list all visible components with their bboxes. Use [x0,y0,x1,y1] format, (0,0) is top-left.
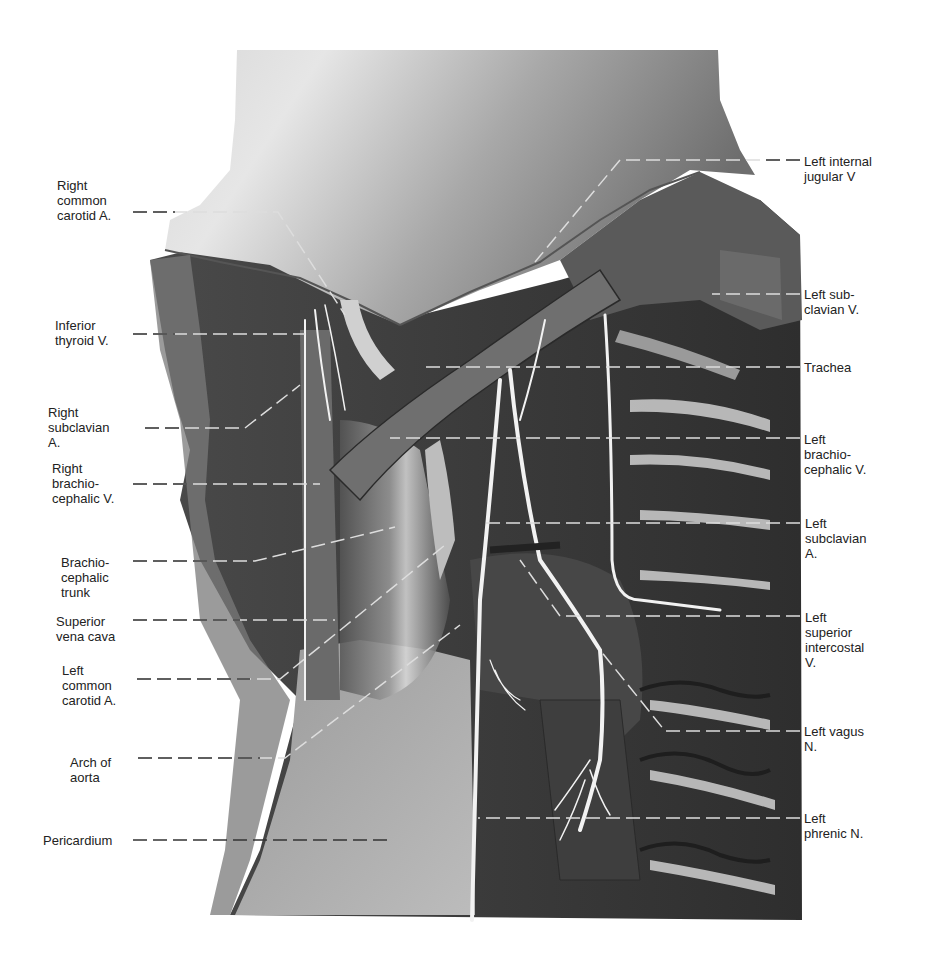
label-left-subclavian-vein: Left sub- clavian V. [804,287,859,317]
label-pericardium: Pericardium [43,833,112,848]
left-superior-intercostal-vein [490,545,560,550]
label-left-brachiocephalic-vein: Left brachio- cephalic V. [804,432,866,477]
label-left-superior-intercostal-vein: Left superior intercostal V. [805,610,864,670]
anatomy-figure: Right common carotid A. Inferior thyroid… [0,0,932,971]
label-left-vagus-nerve: Left vagus N. [804,724,864,754]
label-right-brachiocephalic-vein: Right brachio- cephalic V. [52,461,114,506]
label-trachea: Trachea [804,360,851,375]
label-right-common-carotid-artery: Right common carotid A. [57,178,111,223]
label-inferior-thyroid-vein: Inferior thyroid V. [55,318,109,348]
label-left-common-carotid-artery: Left common carotid A. [62,663,116,708]
label-brachiocephalic-trunk: Brachio- cephalic trunk [61,555,109,600]
label-left-subclavian-artery: Left subclavian A. [805,516,866,561]
specimen-illustration [0,0,932,971]
label-arch-of-aorta: Arch of aorta [70,755,111,785]
label-left-internal-jugular-vein: Left internal jugular V [804,154,872,184]
label-right-subclavian-artery: Right subclavian A. [48,405,109,450]
label-superior-vena-cava: Superior vena cava [56,614,115,644]
label-left-phrenic-nerve: Left phrenic N. [804,811,863,841]
